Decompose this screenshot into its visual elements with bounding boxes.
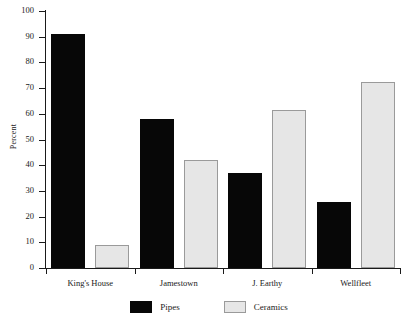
plot-area: 0102030405060708090100 (46, 11, 400, 268)
legend-swatch-icon (224, 301, 246, 313)
legend-label: Pipes (160, 302, 180, 312)
bar-pipes-3 (317, 202, 351, 268)
y-axis-tick-label: 70 (26, 82, 35, 93)
y-axis-tick: 60 (39, 114, 46, 115)
legend-swatch-icon (130, 301, 152, 313)
bar-pipes-1 (140, 119, 174, 268)
y-axis-tick-label: 10 (26, 236, 35, 247)
legend-entry-pipes: Pipes (130, 301, 180, 313)
y-axis-tick: 80 (39, 62, 46, 63)
bar-ceramics-3 (361, 82, 395, 268)
y-axis-tick-label: 100 (21, 5, 34, 16)
bar-ceramics-2 (272, 110, 306, 268)
x-axis-category-label: J. Earthy (223, 278, 312, 288)
x-axis-tick (312, 268, 313, 274)
y-axis-tick-label: 40 (26, 159, 35, 170)
y-axis-tick-label: 90 (26, 31, 35, 42)
bar-chart: Percent 0102030405060708090100 PipesCera… (0, 0, 418, 323)
bar-ceramics-0 (95, 245, 129, 268)
y-axis-tick: 70 (39, 88, 46, 89)
x-axis-tick (135, 268, 136, 274)
legend-entry-ceramics: Ceramics (224, 301, 288, 313)
y-axis-tick-label: 60 (26, 108, 35, 119)
y-axis-tick: 0 (39, 268, 46, 269)
legend-label: Ceramics (254, 302, 288, 312)
y-axis-tick: 100 (39, 11, 46, 12)
x-axis-tick (223, 268, 224, 274)
chart-legend: PipesCeramics (0, 297, 418, 317)
y-axis-tick: 90 (39, 37, 46, 38)
y-axis-tick-label: 20 (26, 211, 35, 222)
x-axis-tick (46, 268, 47, 274)
bar-ceramics-1 (184, 160, 218, 268)
x-axis-category-label: Wellfleet (312, 278, 401, 288)
bar-pipes-2 (228, 173, 262, 268)
y-axis-tick: 30 (39, 191, 46, 192)
y-axis-title: Percent (9, 107, 18, 167)
x-axis-category-label: King's House (46, 278, 135, 288)
y-axis-tick: 40 (39, 165, 46, 166)
y-axis-tick-label: 0 (30, 262, 34, 273)
bar-pipes-0 (51, 34, 85, 268)
y-axis-tick: 10 (39, 242, 46, 243)
y-axis-tick-label: 30 (26, 185, 35, 196)
x-axis-tick (400, 268, 401, 274)
x-axis-category-label: Jamestown (135, 278, 224, 288)
y-axis-tick: 50 (39, 140, 46, 141)
y-axis-tick-label: 50 (26, 134, 35, 145)
y-axis-tick-label: 80 (26, 56, 35, 67)
y-axis-tick: 20 (39, 217, 46, 218)
